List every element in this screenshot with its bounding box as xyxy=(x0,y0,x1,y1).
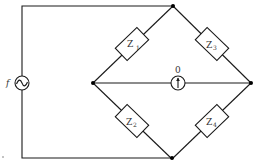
node-top xyxy=(171,4,175,8)
svg-text:2: 2 xyxy=(133,121,137,128)
bridge-circuit-diagram: f 0 Z 1 Z 3 Z 2 Z 4 xyxy=(0,0,256,162)
speck-mark xyxy=(2,156,4,158)
svg-text:4: 4 xyxy=(213,121,217,128)
node-right xyxy=(249,81,253,85)
svg-text:Z: Z xyxy=(127,39,133,49)
node-left xyxy=(91,81,95,85)
impedance-z2-label: Z xyxy=(126,117,132,127)
source-loop-wires xyxy=(22,6,173,158)
impedance-z4-label: Z xyxy=(206,117,212,127)
detector-label: 0 xyxy=(175,65,181,75)
svg-text:1: 1 xyxy=(136,44,140,51)
impedance-z3-label: Z xyxy=(206,40,212,50)
galvanometer-icon xyxy=(171,76,185,90)
svg-text:3: 3 xyxy=(213,44,217,51)
node-bottom xyxy=(170,156,174,160)
ac-source-icon xyxy=(15,76,29,90)
impedance-z1: Z xyxy=(115,27,148,60)
source-label: f xyxy=(5,78,11,88)
